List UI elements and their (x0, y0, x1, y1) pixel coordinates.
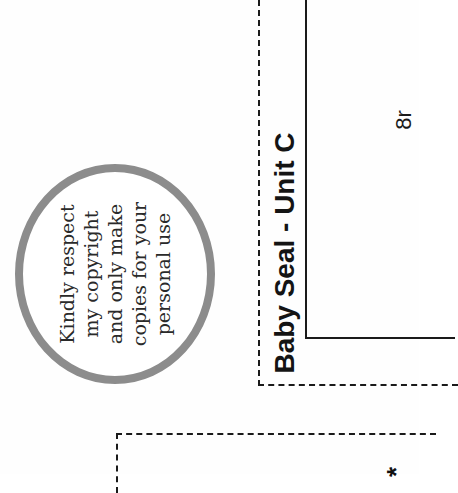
copyright-line-1: Kindly respect (55, 174, 79, 374)
cut-line-next-piece (116, 433, 436, 493)
asterisk-marker-icon: * (383, 467, 409, 477)
copyright-notice: Kindly respect my copyright and only mak… (55, 174, 175, 374)
copyright-line-4: copies for your (127, 174, 151, 374)
copyright-line-5: personal use (151, 174, 175, 374)
piece-label: 8r (391, 110, 417, 130)
unit-title: Baby Seal - Unit C (269, 132, 301, 373)
copyright-line-2: my copyright (79, 174, 103, 374)
copyright-seal: Kindly respect my copyright and only mak… (15, 164, 215, 384)
copyright-line-3: and only make (103, 174, 127, 374)
piece-outline-8r (305, 0, 455, 339)
